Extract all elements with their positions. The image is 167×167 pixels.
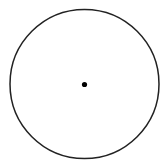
circle-diagram bbox=[0, 0, 167, 167]
center-point bbox=[82, 82, 87, 87]
